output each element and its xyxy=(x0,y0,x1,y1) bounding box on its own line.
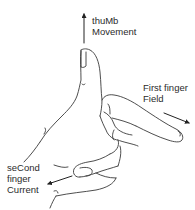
palm-crease xyxy=(54,165,68,167)
first-finger-label-line1: First finger xyxy=(143,82,188,93)
hand-left-edge xyxy=(24,128,46,162)
second-finger-arrow-icon xyxy=(48,176,72,184)
hand-rule-diagram: thuMb Movement First finger Field seCond… xyxy=(0,0,195,210)
second-finger-label-line3: Current xyxy=(7,184,40,195)
first-finger-arrow-icon xyxy=(164,113,189,123)
second-finger-label-line1: seCond xyxy=(7,162,40,173)
thumb-label-line1: thuMb xyxy=(92,15,136,26)
second-finger-label: seCond finger Current xyxy=(7,162,40,195)
thumb-outline xyxy=(40,49,102,142)
first-finger-label-line2: Field xyxy=(143,93,188,104)
thumb-label: thuMb Movement xyxy=(92,15,136,37)
first-finger-label: First finger Field xyxy=(143,82,188,104)
thumb-label-line2: Movement xyxy=(92,26,136,37)
curled-fingers-outline xyxy=(50,116,138,208)
second-finger-label-line2: finger xyxy=(7,173,40,184)
